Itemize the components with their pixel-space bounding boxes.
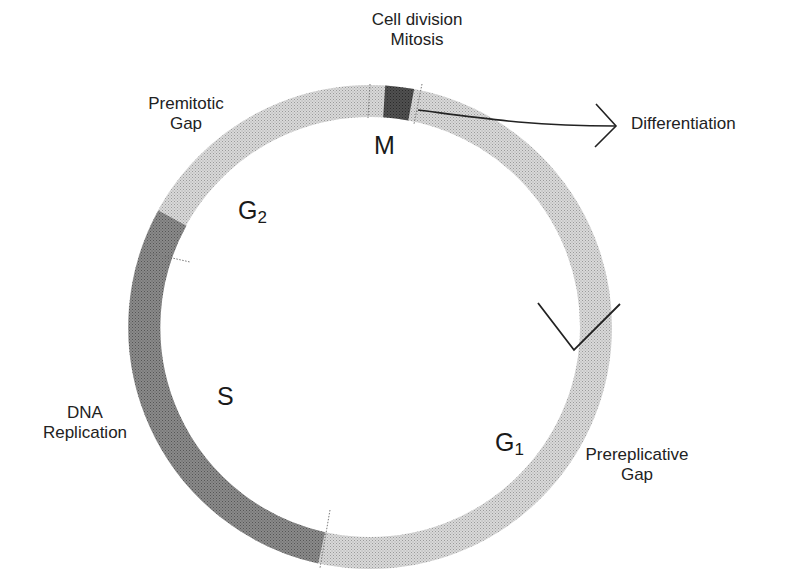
phase-label-m: M	[374, 131, 395, 159]
phase-label-g1-subscript: 1	[514, 440, 523, 459]
g1-description-line-1: Prereplicative	[572, 445, 702, 465]
g1-description-line-2: Gap	[572, 465, 702, 485]
ring-segment-m-phase	[384, 101, 411, 104]
s-description-line-1: DNA	[30, 403, 140, 423]
m-phase-description-line-1: Cell division	[362, 10, 472, 30]
m-phase-description: Cell division Mitosis	[362, 10, 472, 50]
m-phase-description-line-2: Mitosis	[362, 30, 472, 50]
g2-description-line-2: Gap	[136, 114, 236, 134]
differentiation-label: Differentiation	[631, 114, 736, 134]
phase-label-g2-subscript: 2	[257, 208, 266, 227]
phase-label-g1-text: G	[495, 428, 514, 456]
g1-description: Prereplicative Gap	[572, 445, 702, 485]
phase-label-s-text: S	[217, 382, 234, 410]
phase-label-g2-text: G	[238, 196, 257, 224]
phase-label-g1: G1	[495, 428, 524, 464]
cell-cycle-diagram	[0, 0, 805, 579]
phase-label-g2: G2	[238, 196, 267, 232]
phase-label-s: S	[217, 382, 234, 410]
s-description: DNA Replication	[30, 403, 140, 443]
g2-description: Premitotic Gap	[136, 94, 236, 134]
phase-label-m-text: M	[374, 131, 395, 159]
s-description-line-2: Replication	[30, 423, 140, 443]
g2-description-line-1: Premitotic	[136, 94, 236, 114]
